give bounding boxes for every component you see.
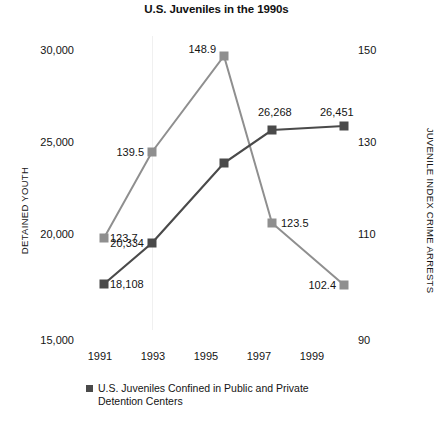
point-label-crime-index-1997: 123.5 xyxy=(281,217,309,229)
point-label-crime-index-1993: 139.5 xyxy=(92,146,144,158)
series-marker-crime-index xyxy=(148,148,157,157)
legend-item: U.S. Juveniles Confined in Public and Pr… xyxy=(86,382,386,408)
point-label-crime-index-1999: 102.4 xyxy=(280,279,336,291)
series-marker-detained-youth xyxy=(148,239,157,248)
series-marker-detained-youth xyxy=(268,126,277,135)
point-label-detained-youth-1993: 20,334 xyxy=(88,237,144,249)
chart-legend: U.S. Juveniles Confined in Public and Pr… xyxy=(86,382,386,408)
legend-swatch-icon xyxy=(86,385,93,392)
series-marker-detained-youth xyxy=(340,122,349,131)
point-label-detained-youth-1999: 26,451 xyxy=(320,106,354,118)
series-marker-crime-index xyxy=(340,281,349,290)
series-marker-detained-youth xyxy=(220,159,229,168)
legend-label: U.S. Juveniles Confined in Public and Pr… xyxy=(98,382,333,408)
series-marker-crime-index xyxy=(220,52,229,61)
point-label-detained-youth-1991: 18,108 xyxy=(110,278,144,290)
point-label-crime-index-1995: 148.9 xyxy=(160,43,216,55)
series-line-crime-index xyxy=(104,56,344,285)
point-label-detained-youth-1997: 26,268 xyxy=(258,106,292,118)
series-marker-crime-index xyxy=(268,219,277,228)
series-marker-detained-youth xyxy=(100,280,109,289)
